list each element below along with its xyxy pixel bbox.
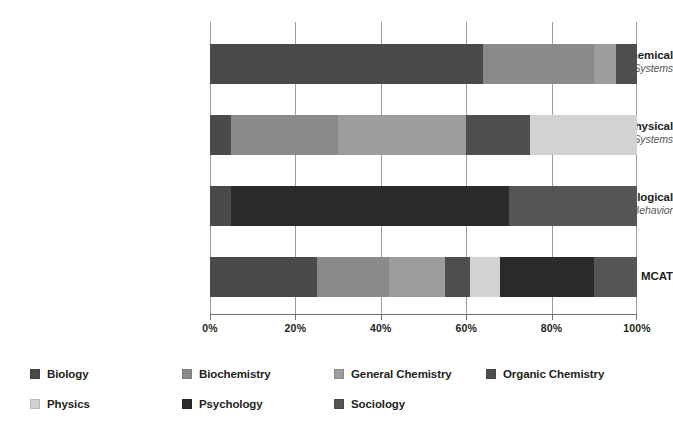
legend-label: Biochemistry [199, 368, 271, 380]
bar-row [210, 115, 637, 155]
bar-segment [210, 44, 483, 84]
x-tick-label: 20% [285, 322, 307, 334]
x-tick-mark [552, 314, 553, 320]
x-tick-label: 0% [202, 322, 218, 334]
bar-segment [338, 115, 466, 155]
legend-swatch-icon [30, 399, 40, 409]
legend-label: Physics [47, 398, 90, 410]
x-tick-mark [636, 314, 637, 320]
legend-item[interactable]: Biochemistry [182, 368, 271, 380]
bar-segment [616, 44, 637, 84]
bar-segment [594, 257, 637, 297]
x-tick-label: 40% [370, 322, 392, 334]
legend-item[interactable]: Organic Chemistry [486, 368, 604, 380]
bar-segment [317, 257, 390, 297]
bar-segment [210, 257, 317, 297]
legend-item[interactable]: Physics [30, 398, 90, 410]
legend-label: Psychology [199, 398, 263, 410]
x-axis-line [210, 314, 637, 315]
bar-segment [483, 44, 594, 84]
legend-item[interactable]: Sociology [334, 398, 405, 410]
x-tick-mark [381, 314, 382, 320]
bar-segment [210, 115, 231, 155]
bar-segment [509, 186, 637, 226]
legend-item[interactable]: Biology [30, 368, 88, 380]
legend-label: Sociology [351, 398, 405, 410]
bar-segment [389, 257, 445, 297]
legend-swatch-icon [334, 399, 344, 409]
legend-swatch-icon [182, 369, 192, 379]
bar-segment [466, 115, 530, 155]
bar-segment [530, 115, 637, 155]
legend-swatch-icon [486, 369, 496, 379]
x-tick-mark [466, 314, 467, 320]
stacked-bar-chart: Biological and BiochemicalFoundations of… [0, 0, 673, 438]
bar-segment [470, 257, 500, 297]
x-tick-label: 100% [623, 322, 651, 334]
bar-row [210, 257, 637, 297]
bar-segment [500, 257, 594, 297]
x-tick-mark [210, 314, 211, 320]
bar-row [210, 44, 637, 84]
legend-swatch-icon [182, 399, 192, 409]
x-tick-mark [295, 314, 296, 320]
legend-swatch-icon [334, 369, 344, 379]
legend-label: Organic Chemistry [503, 368, 604, 380]
bar-segment [210, 186, 231, 226]
legend-item[interactable]: General Chemistry [334, 368, 452, 380]
bar-segment [231, 186, 509, 226]
bar-row [210, 186, 637, 226]
legend-label: Biology [47, 368, 88, 380]
legend-swatch-icon [30, 369, 40, 379]
x-tick-label: 80% [541, 322, 563, 334]
bar-segment [231, 115, 338, 155]
legend-item[interactable]: Psychology [182, 398, 263, 410]
plot-area: 0%20%40%60%80%100% [210, 22, 637, 314]
legend-label: General Chemistry [351, 368, 452, 380]
x-tick-label: 60% [455, 322, 477, 334]
bar-segment [445, 257, 471, 297]
bar-segment [594, 44, 615, 84]
